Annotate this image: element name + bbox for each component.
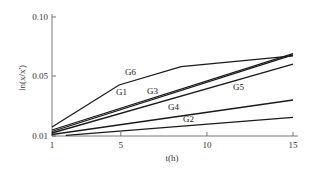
x-tick-label: 1 [50, 140, 55, 150]
series-label-g2: G2 [183, 114, 194, 124]
series-line-g1 [52, 54, 293, 130]
x-axis-label: t(h) [166, 153, 179, 163]
x-tick-label: 15 [289, 140, 299, 150]
y-axis-label: ln(x/x') [17, 65, 27, 91]
series-line-g5 [52, 64, 293, 133]
x-tick-label: 10 [202, 140, 212, 150]
series-label-g6: G6 [125, 67, 136, 77]
y-tick-label: 0.10 [32, 12, 48, 22]
series-lines [52, 54, 293, 136]
y-ticks: 0.010.050.10 [32, 12, 56, 141]
y-tick-label: 0.05 [32, 71, 48, 81]
series-label-g1: G1 [116, 87, 127, 97]
line-chart: 0.010.050.10 151015 G6G1G3G5G4G2 t(h) ln… [0, 0, 316, 171]
series-label-g4: G4 [168, 102, 179, 112]
x-ticks: 151015 [50, 132, 298, 150]
y-tick-label: 0.01 [32, 131, 48, 141]
series-label-g3: G3 [147, 86, 158, 96]
series-label-g5: G5 [233, 82, 244, 92]
x-tick-label: 5 [119, 140, 124, 150]
